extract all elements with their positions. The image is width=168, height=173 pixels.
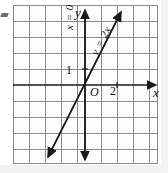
graph-screenshot: y x O 1 2 x = 0 y = 2x bbox=[0, 0, 168, 173]
scan-edge-right bbox=[161, 0, 168, 173]
line-y-equals-2x bbox=[13, 5, 158, 164]
vertical-line-equation-label: x = 0 bbox=[64, 4, 75, 30]
y-tick-label-1: 1 bbox=[66, 64, 72, 76]
x-axis-label: x bbox=[153, 86, 159, 99]
coordinate-graph-plate bbox=[13, 5, 158, 164]
origin-label: O bbox=[90, 86, 99, 98]
x-tick-label-2: 2 bbox=[110, 85, 116, 97]
y-axis-label: y bbox=[75, 6, 81, 19]
page-speck-mark bbox=[0, 13, 8, 17]
scan-edge-bottom bbox=[0, 165, 168, 173]
